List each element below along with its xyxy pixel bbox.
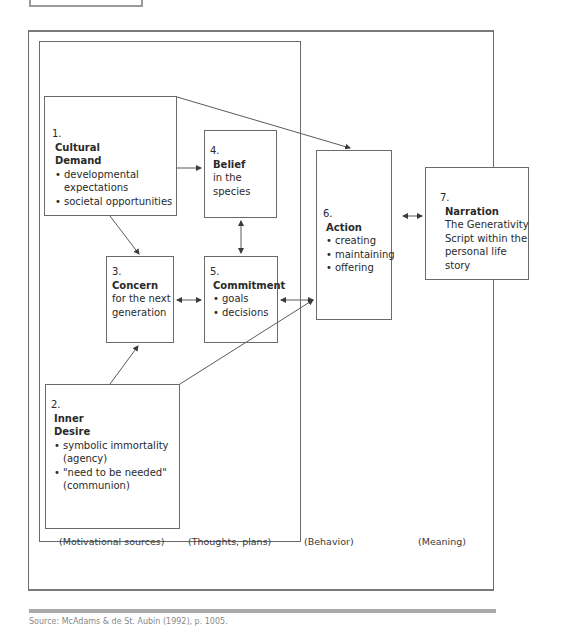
bullet-item: decisions xyxy=(213,306,280,320)
box-title: Demand xyxy=(52,154,176,168)
box-title: Narration xyxy=(440,205,532,219)
bullet-item: maintaining xyxy=(326,248,393,262)
bullet-item: symbolic immortality (agency) xyxy=(54,439,179,466)
box-text: The Generativity xyxy=(440,218,532,232)
box-narration: 7. Narration The Generativity Script wit… xyxy=(425,167,529,280)
footer-rule xyxy=(29,609,496,613)
box-number: 1. xyxy=(52,127,176,141)
column-label-behavior: (Behavior) xyxy=(304,536,354,547)
bullet-item: offering xyxy=(326,261,393,275)
box-concern: 3. Concern for the next generation xyxy=(106,256,174,343)
bullet-item: societal opportunities xyxy=(55,195,176,209)
top-tab-decoration xyxy=(29,0,143,7)
box-number: 2. xyxy=(51,398,179,412)
bullet-item: developmental expectations xyxy=(55,168,176,195)
box-number: 3. xyxy=(112,265,176,279)
column-label-thoughts: (Thoughts, plans) xyxy=(188,536,271,547)
bullet-item: creating xyxy=(326,234,393,248)
box-inner-desire: 2. Inner Desire symbolic immortality (ag… xyxy=(45,384,180,529)
box-title: Concern xyxy=(112,279,176,293)
box-number: 4. xyxy=(210,144,278,158)
bullet-item: "need to be needed" (communion) xyxy=(54,466,179,493)
box-text: in the species xyxy=(210,171,278,198)
box-title: Cultural xyxy=(52,141,176,155)
column-label-meaning: (Meaning) xyxy=(418,536,466,547)
box-text: Script within the xyxy=(440,232,532,246)
box-text: generation xyxy=(112,306,176,320)
box-commitment: 5. Commitment goals decisions xyxy=(204,256,278,343)
column-label-motivational: (Motivational sources) xyxy=(59,536,164,547)
box-text: personal life story xyxy=(440,245,532,272)
box-text: for the next xyxy=(112,292,176,306)
box-title: Inner xyxy=(51,412,179,426)
box-belief: 4. Belief in the species xyxy=(204,130,277,218)
box-title: Action xyxy=(323,221,393,235)
box-title: Belief xyxy=(210,158,278,172)
bullet-item: goals xyxy=(213,292,280,306)
source-note: Source: McAdams & de St. Aubin (1992), p… xyxy=(29,617,228,626)
box-title: Desire xyxy=(51,425,179,439)
box-title: Commitment xyxy=(210,279,280,293)
box-number: 7. xyxy=(440,191,532,205)
box-cultural-demand: 1. Cultural Demand developmental expecta… xyxy=(44,96,177,216)
box-number: 5. xyxy=(210,265,280,279)
box-action: 6. Action creating maintaining offering xyxy=(316,150,392,320)
box-number: 6. xyxy=(323,207,393,221)
